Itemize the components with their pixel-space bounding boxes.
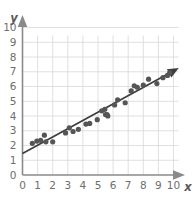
x-tick-label: 8 xyxy=(140,179,147,191)
x-tick-label: 0 xyxy=(19,179,26,191)
y-tick-label: 5 xyxy=(10,95,17,107)
data-point xyxy=(146,77,151,82)
x-tick-label: 7 xyxy=(125,179,132,191)
scatter-plot-figure: 012345678910 012345678910 y x xyxy=(0,0,196,202)
x-tick-label: 4 xyxy=(80,179,87,191)
data-point xyxy=(67,125,72,130)
y-tick-label: 6 xyxy=(10,80,17,92)
y-axis-tick-labels: 012345678910 xyxy=(3,21,17,181)
data-point xyxy=(112,102,117,107)
data-point xyxy=(115,97,120,102)
data-point xyxy=(38,138,43,143)
x-tick-label: 2 xyxy=(49,179,56,191)
x-tick-label: 10 xyxy=(167,179,180,191)
data-point xyxy=(154,81,159,86)
y-tick-label: 2 xyxy=(10,139,17,151)
data-point xyxy=(87,121,92,126)
data-point xyxy=(129,88,134,93)
data-point xyxy=(70,129,75,134)
y-tick-label: 3 xyxy=(10,124,17,136)
x-tick-label: 1 xyxy=(34,179,41,191)
data-point xyxy=(160,75,165,80)
data-point xyxy=(167,70,172,75)
data-point xyxy=(135,85,140,90)
y-axis-arrowhead xyxy=(18,15,28,27)
vertical-gridlines xyxy=(38,36,174,176)
plot-canvas: 012345678910 012345678910 y x xyxy=(0,0,196,202)
y-tick-label: 7 xyxy=(10,65,17,77)
x-tick-label: 6 xyxy=(110,179,117,191)
data-point xyxy=(63,130,68,135)
data-point xyxy=(95,117,100,122)
data-point xyxy=(76,127,81,132)
data-point xyxy=(43,139,48,144)
data-point xyxy=(42,133,47,138)
data-point xyxy=(123,100,128,105)
x-tick-label: 5 xyxy=(95,179,102,191)
x-axis-tick-labels: 012345678910 xyxy=(19,179,180,191)
data-point xyxy=(102,107,107,112)
data-point xyxy=(30,141,35,146)
y-tick-label: 9 xyxy=(10,36,17,48)
x-tick-label: 3 xyxy=(64,179,71,191)
x-axis-label: x xyxy=(183,180,192,194)
y-tick-label: 8 xyxy=(10,51,17,63)
y-tick-label: 0 xyxy=(10,169,17,181)
x-tick-label: 9 xyxy=(155,179,162,191)
y-tick-label: 1 xyxy=(10,154,17,166)
data-point-series xyxy=(30,70,173,146)
y-axis-label: y xyxy=(10,11,18,25)
data-point xyxy=(105,113,110,118)
data-point xyxy=(50,139,55,144)
y-tick-label: 4 xyxy=(10,110,17,122)
data-point xyxy=(141,82,146,87)
